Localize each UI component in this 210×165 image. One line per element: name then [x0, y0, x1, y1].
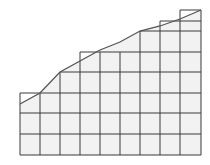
area-under-curve — [20, 10, 201, 155]
riemann-grid-diagram — [0, 0, 210, 165]
